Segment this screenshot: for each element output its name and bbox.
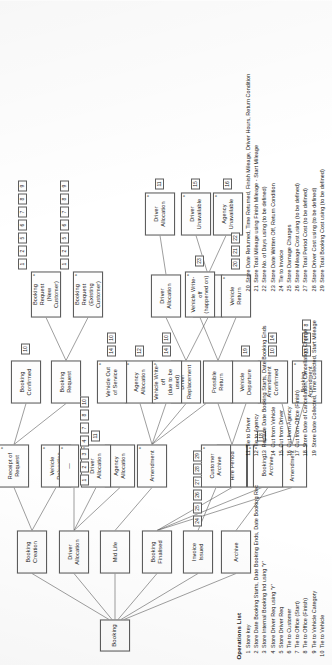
node-label: Receipt of Request bbox=[7, 452, 21, 478]
asterisk-icon: * bbox=[99, 363, 104, 365]
operation-ref-box[interactable]: 11 bbox=[155, 178, 164, 189]
operation-ref-box[interactable]: 7 bbox=[80, 422, 89, 433]
node-label: Possible Return bbox=[211, 370, 225, 392]
operation-ref-box[interactable]: 9 bbox=[18, 180, 27, 191]
asterisk-icon: * bbox=[1, 447, 6, 449]
operation-ref-box[interactable]: 5 bbox=[18, 232, 27, 243]
operation-ref-box[interactable]: 2 bbox=[80, 461, 89, 472]
node-vehicle-write-off-happened-on[interactable]: * Vehicle Write-off (happened on) bbox=[185, 271, 215, 317]
operation-number: 14 bbox=[269, 450, 277, 459]
operation-ref-box[interactable]: 11 bbox=[91, 430, 100, 441]
node-driver-allocation-3[interactable]: Driver Allocation bbox=[151, 274, 181, 317]
node-amendment-mid-life[interactable]: * Amendment bbox=[137, 444, 167, 487]
node-agency-allocation-2[interactable]: * Agency Allocation bbox=[125, 360, 155, 403]
node-customer-archive[interactable]: * Customer Archive bbox=[201, 444, 231, 487]
node-label: Booking Request (Existing Customer) bbox=[74, 274, 102, 314]
operation-text: Store Date Collected, Time Collected, St… bbox=[310, 320, 318, 447]
operation-number: 13 bbox=[260, 450, 268, 459]
node-booking-request-existing-customer[interactable]: * Booking Request (Existing Customer) bbox=[73, 271, 103, 317]
operation-ref-box[interactable]: 7 bbox=[18, 206, 27, 217]
node-mid-life[interactable]: Mid Life bbox=[100, 530, 130, 573]
node-label: Agency Allocation bbox=[133, 369, 147, 394]
operation-item: 1Store key bbox=[244, 485, 252, 659]
operation-ref-box[interactable]: 1 bbox=[80, 474, 89, 485]
operation-number: 29 bbox=[318, 285, 326, 294]
operation-ref-box[interactable]: 2 bbox=[18, 245, 27, 256]
operation-ref-box[interactable]: 15 bbox=[191, 178, 200, 189]
operation-ref-box[interactable]: 10 bbox=[80, 396, 89, 407]
node-unlabelled-dash[interactable]: * — bbox=[59, 444, 79, 487]
node-possible-return[interactable]: Possible Return bbox=[203, 360, 233, 403]
operation-ref-box[interactable]: 8 bbox=[18, 193, 27, 204]
operation-item: 15Cut from Driver bbox=[277, 320, 285, 459]
scanned-diagram-page: Booking Booking Creation Mid Life Bookin… bbox=[0, 0, 332, 665]
operation-ref-box[interactable]: 7 bbox=[60, 206, 69, 217]
operation-ref-box[interactable]: 6 bbox=[60, 219, 69, 230]
node-driver-allocation-parent[interactable]: Driver Allocation bbox=[59, 530, 89, 573]
operation-item: 13Replace Date Booking Starts, Date Book… bbox=[260, 320, 268, 459]
asterisk-icon: * bbox=[33, 274, 38, 276]
operation-ref-box[interactable]: 27 bbox=[193, 476, 202, 487]
operation-ref-box[interactable]: 8 bbox=[80, 409, 89, 420]
operation-ref-box[interactable]: 26 bbox=[193, 489, 202, 500]
operation-text: Store Date Returned, Time Returned, Fini… bbox=[244, 73, 252, 282]
node-booking-request[interactable]: Booking Request bbox=[51, 360, 81, 403]
operation-ref-box[interactable]: 14 bbox=[107, 345, 116, 356]
operation-ref-box[interactable]: 25 bbox=[193, 502, 202, 513]
operation-ref-box[interactable]: 28 bbox=[193, 463, 202, 474]
operation-ref-box[interactable]: 24 bbox=[193, 515, 202, 526]
operation-number: 11 bbox=[244, 450, 252, 459]
operation-ref-box[interactable]: 14 bbox=[162, 345, 171, 356]
operation-number: 4 bbox=[269, 650, 277, 659]
node-driver-allocation-4[interactable]: * Driver Allocation bbox=[145, 192, 175, 235]
operation-ref-box[interactable]: 10 bbox=[107, 332, 116, 343]
operation-ref-box[interactable]: 9 bbox=[60, 180, 69, 191]
operation-item: 29Store Total Booking Cost using (to be … bbox=[318, 73, 326, 293]
operation-text: Store Total Mileage using Finish Mileage… bbox=[252, 145, 260, 283]
operation-ref-box[interactable]: 12 bbox=[135, 345, 144, 356]
node-booking-creation[interactable]: Booking Creation bbox=[17, 530, 47, 573]
node-label: Vehicle Write-off (happened on) bbox=[190, 274, 211, 314]
operation-ref-box[interactable]: 4 bbox=[80, 435, 89, 446]
node-driver-unavailable-2[interactable]: * Driver Unavailable bbox=[181, 192, 211, 235]
operation-item: 26Store Mileage Cost using (to be define… bbox=[293, 73, 301, 293]
operation-text: Store Driver Cost using (to be defined) bbox=[310, 187, 318, 282]
node-booking[interactable]: Booking bbox=[100, 619, 130, 651]
operation-text: Tie to Office (Start) bbox=[293, 601, 301, 648]
operation-text: Store Driver Req bbox=[277, 606, 285, 647]
operation-item: 21Store Total Mileage using Finish Milea… bbox=[252, 73, 260, 293]
node-label: Driver Allocation bbox=[153, 201, 167, 226]
operation-ref-box[interactable]: 10 bbox=[21, 343, 30, 354]
node-booking-request-new-customer[interactable]: * Booking Request (New Customer) bbox=[31, 271, 61, 317]
operation-text: Tie to Customer bbox=[285, 608, 293, 647]
node-invoice-issued[interactable]: Invoice Issued bbox=[183, 530, 213, 573]
node-booking-finalised[interactable]: Booking Finalised bbox=[142, 530, 172, 573]
operation-text: Tie to Agency bbox=[252, 414, 260, 448]
operation-item: 18Store Date of Cancellation, Cancellati… bbox=[301, 320, 309, 459]
operation-ref-box[interactable]: 1 bbox=[60, 258, 69, 269]
operation-number: 23 bbox=[269, 285, 277, 294]
operation-ref-box[interactable]: 2 bbox=[60, 245, 69, 256]
operation-ref-box[interactable]: 3 bbox=[80, 448, 89, 459]
operation-item: 2Store Date Booking Starts, Date Booking… bbox=[252, 485, 260, 659]
operation-item: 22Store No. of Days using (to be defined… bbox=[260, 73, 268, 293]
operation-text: Store No. of Days using (to be defined) bbox=[260, 186, 268, 282]
operation-ref-box[interactable]: 5 bbox=[60, 232, 69, 243]
operations-column-2: 11Tie to Driver12Tie to Agency13Replace … bbox=[244, 320, 326, 459]
operation-item: 10Tie to Vehicle bbox=[318, 485, 326, 659]
operation-ref-box[interactable]: 8 bbox=[60, 193, 69, 204]
operation-ref-box[interactable]: 29 bbox=[193, 450, 202, 461]
operation-ref-box[interactable]: 23 bbox=[195, 255, 204, 266]
node-receipt-of-request[interactable]: * Receipt of Request bbox=[0, 444, 29, 487]
operation-number: 21 bbox=[252, 285, 260, 294]
node-vehicle-out-of-service[interactable]: * Vehicle Out of Service bbox=[97, 360, 127, 403]
node-vehicle-write-off-due-to-be-used[interactable]: * Vehicle Write-off (due to be used) bbox=[152, 360, 182, 403]
operation-ref-box[interactable]: 1 bbox=[18, 258, 27, 269]
node-booking-confirmed[interactable]: Booking Confirmed bbox=[11, 360, 41, 403]
operation-item: 7Tie to Office (Start) bbox=[293, 485, 301, 659]
operation-ref-box[interactable]: 10 bbox=[162, 332, 171, 343]
operation-ref-box[interactable]: 6 bbox=[18, 219, 27, 230]
operation-item: 8Tie to Office (Finish) bbox=[301, 485, 309, 659]
operation-item: 6Tie to Customer bbox=[285, 485, 293, 659]
operation-ref-box[interactable]: 16 bbox=[223, 178, 232, 189]
